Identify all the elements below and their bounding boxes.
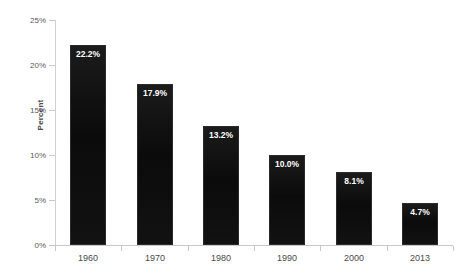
x-axis-tick-mark — [254, 246, 255, 251]
y-axis-tick-label-wrap: 25% — [0, 20, 46, 21]
x-axis-tick-mark — [387, 246, 388, 251]
x-axis-category-label: 1960 — [58, 253, 118, 263]
y-axis-tick-mark — [49, 65, 55, 66]
y-axis-tick-label: 0% — [2, 241, 46, 250]
y-axis-tick-mark — [49, 110, 55, 111]
bar — [70, 45, 106, 245]
bar-value-label: 10.0% — [257, 159, 317, 169]
x-axis-tick-mark — [453, 246, 454, 251]
x-axis-category-label: 1980 — [191, 253, 251, 263]
bar-value-label: 22.2% — [58, 49, 118, 59]
x-axis-tick-mark — [121, 246, 122, 251]
y-axis-tick-mark — [49, 155, 55, 156]
bar-value-label: 4.7% — [390, 207, 450, 217]
x-axis-tick-mark — [55, 246, 56, 251]
x-axis-category-label: 1970 — [125, 253, 185, 263]
bar-chart: Percent 0%5%10%15%20%25% 22.2%17.9%13.2%… — [0, 0, 470, 280]
bar — [137, 84, 173, 245]
y-axis-title: Percent — [36, 80, 54, 150]
y-axis-tick-label: 20% — [2, 61, 46, 70]
y-axis-tick-label-wrap: 20% — [0, 65, 46, 66]
bar-value-label: 13.2% — [191, 130, 251, 140]
y-axis-tick-label: 10% — [2, 151, 46, 160]
x-axis-category-label: 2000 — [324, 253, 384, 263]
y-axis-tick-mark — [49, 20, 55, 21]
bar-value-label: 8.1% — [324, 176, 384, 186]
x-axis-category-label: 1990 — [257, 253, 317, 263]
y-axis-tick-label-wrap: 5% — [0, 200, 46, 201]
x-axis-category-label: 2013 — [390, 253, 450, 263]
x-axis-tick-mark — [188, 246, 189, 251]
y-axis-tick-label-wrap: 10% — [0, 155, 46, 156]
x-axis-tick-mark — [320, 246, 321, 251]
y-axis-tick-mark — [49, 200, 55, 201]
y-axis-line — [55, 20, 56, 246]
y-axis-tick-label-wrap: 0% — [0, 245, 46, 246]
bar-value-label: 17.9% — [125, 88, 185, 98]
y-axis-tick-label: 25% — [2, 16, 46, 25]
y-axis-tick-label: 15% — [2, 106, 46, 115]
y-axis-tick-label: 5% — [2, 196, 46, 205]
y-axis-tick-label-wrap: 15% — [0, 110, 46, 111]
bar — [203, 126, 239, 245]
